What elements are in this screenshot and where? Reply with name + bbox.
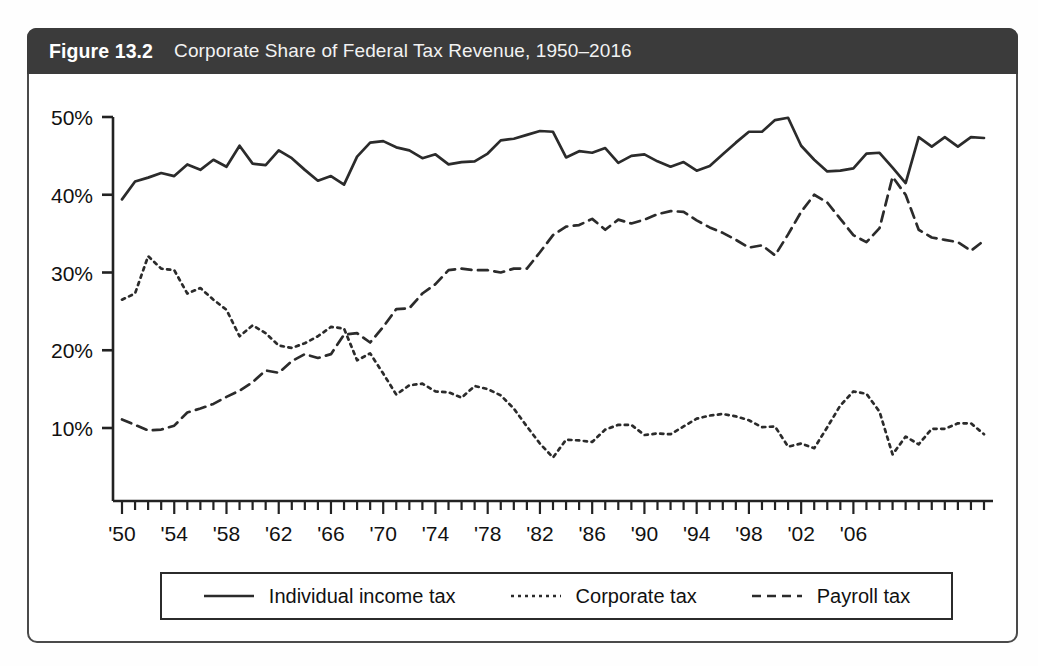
solid-line-swatch bbox=[203, 589, 255, 603]
legend-label-payroll-tax: Payroll tax bbox=[817, 585, 910, 608]
legend-label-corporate-tax: Corporate tax bbox=[576, 585, 697, 608]
x-tick-label: '62 bbox=[265, 522, 292, 545]
axis-lines bbox=[102, 117, 993, 514]
y-tick-label: 40% bbox=[51, 184, 93, 207]
y-tick-label: 50% bbox=[51, 106, 93, 129]
x-tick-label: '98 bbox=[735, 522, 762, 545]
figure-header-bar: Figure 13.2 Corporate Share of Federal T… bbox=[27, 28, 1018, 74]
figure-title: Corporate Share of Federal Tax Revenue, … bbox=[174, 40, 632, 62]
x-tick-label: '82 bbox=[526, 522, 553, 545]
y-axis-tick-labels: 50%40%30%20%10% bbox=[51, 106, 93, 440]
x-tick-label: '86 bbox=[578, 522, 605, 545]
x-tick-label: '54 bbox=[161, 522, 189, 545]
legend-entry-corporate-tax: Corporate tax bbox=[510, 585, 697, 608]
dotted-line-swatch bbox=[510, 589, 562, 603]
legend-entry-individual-income-tax: Individual income tax bbox=[203, 585, 456, 608]
x-tick-label: '02 bbox=[787, 522, 814, 545]
plot-area: 50%40%30%20%10% '50'54'58'62'66'70'74'78… bbox=[27, 74, 1018, 643]
legend-entry-payroll-tax: Payroll tax bbox=[751, 585, 910, 608]
chart-legend: Individual income tax Corporate tax Payr… bbox=[160, 572, 953, 620]
figure-container: Figure 13.2 Corporate Share of Federal T… bbox=[0, 0, 1038, 666]
series-line-corporate-tax bbox=[122, 256, 984, 457]
x-tick-label: '78 bbox=[474, 522, 501, 545]
figure-number: Figure 13.2 bbox=[49, 40, 153, 63]
y-tick-label: 10% bbox=[51, 417, 93, 440]
x-axis-tick-labels: '50'54'58'62'66'70'74'78'82'86'90'94'98'… bbox=[108, 522, 867, 545]
x-tick-label: '90 bbox=[631, 522, 658, 545]
x-tick-label: '66 bbox=[317, 522, 344, 545]
x-tick-label: '06 bbox=[840, 522, 867, 545]
x-tick-label: '94 bbox=[683, 522, 711, 545]
x-tick-label: '74 bbox=[422, 522, 450, 545]
series-line-individual-income-tax bbox=[122, 118, 984, 200]
x-tick-label: '50 bbox=[108, 522, 135, 545]
line-chart-svg: 50%40%30%20%10% '50'54'58'62'66'70'74'78… bbox=[27, 74, 1018, 643]
x-tick-label: '70 bbox=[370, 522, 397, 545]
y-tick-label: 20% bbox=[51, 339, 93, 362]
y-tick-label: 30% bbox=[51, 262, 93, 285]
data-series-group bbox=[122, 118, 984, 458]
legend-label-individual-income-tax: Individual income tax bbox=[269, 585, 456, 608]
dashed-line-swatch bbox=[751, 589, 803, 603]
x-tick-label: '58 bbox=[213, 522, 240, 545]
